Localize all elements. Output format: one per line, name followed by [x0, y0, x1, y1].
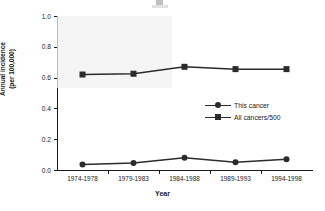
legend-item: All cancers/500	[205, 111, 317, 123]
series-layer	[57, 16, 312, 170]
y-tick-mark	[54, 47, 58, 48]
data-point-square	[131, 71, 137, 77]
x-axis-title: Year	[0, 190, 325, 197]
y-tick-mark	[54, 139, 58, 140]
y-tick-label: 1.0	[25, 13, 51, 20]
plot-area	[57, 16, 312, 170]
data-point-square	[182, 64, 188, 70]
x-tick-mark	[261, 170, 262, 174]
data-point-square	[233, 66, 239, 72]
y-axis-title: Annual incidence (per 100,000)	[0, 23, 25, 115]
data-point-square	[284, 66, 290, 72]
y-tick-mark	[54, 108, 58, 109]
legend-item: This cancer	[205, 99, 317, 111]
y-tick-label: 0.8	[25, 43, 51, 50]
y-tick-mark	[54, 16, 58, 17]
chart-figure: Annual incidence (per 100,000) 0.00.20.4…	[0, 0, 325, 211]
y-tick-label: 0.6	[25, 74, 51, 81]
legend-marker-icon	[205, 112, 231, 122]
cropped-caption-artifact-shadow	[152, 5, 168, 8]
data-point-circle	[284, 156, 290, 162]
y-tick-label: 0.2	[25, 136, 51, 143]
y-tick-label: 0.0	[25, 167, 51, 174]
x-tick-mark	[159, 170, 160, 174]
y-axis-title-line-1: Annual incidence	[0, 23, 8, 115]
x-tick-mark	[108, 170, 109, 174]
y-tick-mark	[54, 78, 58, 79]
data-point-circle	[80, 162, 86, 168]
legend-marker-icon	[205, 100, 231, 110]
x-axis-line	[57, 170, 313, 171]
legend-label: This cancer	[234, 101, 269, 110]
y-tick-mark	[54, 170, 58, 171]
x-tick-mark	[210, 170, 211, 174]
y-tick-label: 0.4	[25, 105, 51, 112]
data-point-circle	[131, 160, 137, 166]
x-tick-label: 1994-1998	[257, 175, 317, 183]
data-point-square	[80, 72, 86, 78]
y-axis-title-line-2: (per 100,000)	[8, 23, 17, 115]
legend-label: All cancers/500	[234, 113, 280, 122]
chart-legend: This cancerAll cancers/500	[205, 99, 317, 123]
data-point-circle	[182, 155, 188, 161]
data-point-circle	[233, 159, 239, 165]
